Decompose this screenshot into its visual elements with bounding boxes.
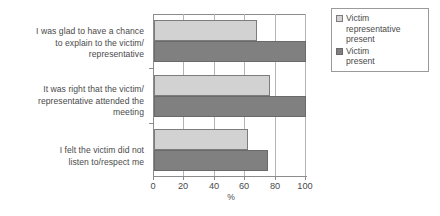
category-axis-labels: I was glad to have a chance to explain t…	[0, 14, 148, 177]
category-label-1-line-2: meeting	[0, 107, 144, 119]
bar-1-1[interactable]	[154, 96, 306, 117]
x-tick	[214, 176, 215, 180]
chart-legend: Victim representative present Victim pre…	[331, 8, 429, 72]
legend-label-0-line-1: representative	[346, 24, 400, 34]
bar-2-0[interactable]	[154, 129, 248, 150]
x-gridline	[275, 14, 276, 176]
x-tick	[244, 176, 245, 180]
bar-0-0[interactable]	[154, 20, 257, 41]
legend-label-0-line-2: present	[346, 34, 375, 44]
category-label-2: I felt the victim did not listen to/resp…	[0, 145, 144, 168]
legend-swatch-icon-0	[336, 15, 343, 22]
x-tick-label: 20	[178, 181, 188, 192]
category-label-2-line-0: I felt the victim did not	[0, 145, 144, 157]
x-tick	[183, 176, 184, 180]
category-label-2-line-1: listen to/respect me	[0, 157, 144, 169]
plot-top-border	[153, 14, 306, 15]
category-label-0-line-2: representative	[0, 49, 144, 61]
category-label-0-line-0: I was glad to have a chance	[0, 26, 144, 38]
category-label-1-line-0: It was right that the victim/	[0, 84, 144, 96]
x-tick	[305, 176, 306, 180]
x-tick-label: 60	[239, 181, 249, 192]
bar-2-1[interactable]	[154, 150, 268, 171]
x-tick-label: 40	[209, 181, 219, 192]
x-tick-label: 80	[270, 181, 280, 192]
legend-label-1-line-0: Victim	[346, 46, 369, 56]
legend-label-1-line-1: present	[346, 56, 375, 66]
y-tick	[149, 123, 153, 124]
x-tick-label: 0	[150, 181, 155, 192]
x-tick	[153, 176, 154, 180]
category-label-0-line-1: to explain to the victim/	[0, 38, 144, 50]
legend-label-0: Victim representative present	[346, 13, 400, 45]
legend-entry-0[interactable]: Victim representative present	[336, 13, 424, 45]
legend-label-0-line-0: Victim	[346, 13, 369, 23]
category-label-0: I was glad to have a chance to explain t…	[0, 26, 144, 61]
legend-label-1: Victim present	[346, 46, 375, 67]
y-tick	[149, 68, 153, 69]
x-axis-line	[153, 176, 307, 177]
x-tick-label: 100	[297, 181, 312, 192]
bar-1-0[interactable]	[154, 75, 270, 96]
bar-chart-figure: I was glad to have a chance to explain t…	[0, 0, 440, 216]
x-gridline	[305, 14, 306, 176]
plot-area	[153, 14, 306, 177]
x-tick	[275, 176, 276, 180]
category-label-1-line-1: representative attended the	[0, 96, 144, 108]
legend-entry-1[interactable]: Victim present	[336, 46, 424, 67]
category-label-1: It was right that the victim/ representa…	[0, 84, 144, 119]
legend-swatch-icon-1	[336, 48, 343, 55]
bar-0-1[interactable]	[154, 41, 306, 62]
x-axis-title: %	[227, 192, 235, 202]
